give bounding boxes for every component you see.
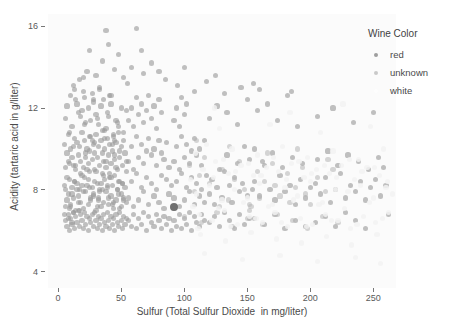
- data-point: [111, 132, 116, 137]
- data-point: [117, 206, 122, 211]
- data-point: [88, 118, 93, 123]
- data-point: [68, 204, 73, 209]
- data-point: [98, 138, 103, 143]
- data-point: [116, 179, 121, 184]
- data-point: [202, 200, 207, 205]
- data-point: [74, 140, 79, 145]
- data-point: [323, 175, 328, 180]
- data-point: [93, 132, 98, 137]
- data-point: [301, 175, 306, 180]
- data-point: [76, 200, 81, 205]
- data-point: [107, 171, 112, 176]
- data-point: [91, 193, 96, 198]
- data-point: [110, 202, 115, 207]
- legend-item-unknown[interactable]: unknown: [368, 64, 463, 82]
- data-point: [189, 228, 194, 233]
- data-point: [246, 161, 251, 166]
- data-point: [144, 228, 149, 233]
- data-point: [204, 173, 209, 178]
- y-axis-tick-mark: [41, 271, 45, 272]
- data-point: [214, 103, 219, 108]
- data-point: [171, 195, 176, 200]
- data-point: [76, 208, 81, 213]
- data-point: [81, 189, 86, 194]
- data-point: [282, 226, 287, 231]
- data-point: [233, 169, 238, 174]
- x-axis-tick-label: 250: [366, 293, 381, 303]
- data-point: [197, 173, 202, 178]
- data-point: [245, 195, 250, 200]
- data-point: [187, 189, 192, 194]
- data-point: [285, 93, 290, 98]
- data-point: [63, 204, 68, 209]
- data-point: [361, 214, 366, 219]
- data-point: [68, 146, 73, 151]
- data-point: [161, 157, 166, 162]
- data-point: [121, 197, 126, 202]
- data-point: [217, 224, 222, 229]
- data-point: [115, 120, 120, 125]
- data-point: [287, 183, 292, 188]
- data-point: [95, 181, 100, 186]
- data-point: [82, 138, 87, 143]
- data-point: [151, 146, 156, 151]
- data-point: [373, 177, 378, 182]
- data-point: [134, 26, 139, 31]
- data-point: [338, 171, 343, 176]
- data-point: [126, 118, 131, 123]
- data-point: [77, 187, 82, 192]
- data-point: [136, 155, 141, 160]
- data-point: [219, 167, 224, 172]
- data-point: [237, 189, 242, 194]
- data-point: [115, 187, 120, 192]
- data-point: [378, 261, 383, 266]
- data-point: [66, 159, 71, 164]
- data-point: [68, 202, 73, 207]
- data-point: [303, 224, 308, 229]
- data-point: [134, 134, 139, 139]
- data-point: [113, 165, 118, 170]
- data-point: [322, 163, 327, 168]
- data-point: [166, 165, 171, 170]
- x-axis-tick-label: 150: [240, 293, 255, 303]
- data-point: [110, 142, 115, 147]
- data-point: [131, 204, 136, 209]
- data-point: [98, 181, 103, 186]
- data-point: [108, 93, 113, 98]
- data-point: [146, 93, 151, 98]
- data-point: [232, 175, 237, 180]
- x-axis-tick-mark: [373, 288, 374, 292]
- data-point: [192, 136, 197, 141]
- data-point: [149, 60, 154, 65]
- data-point: [166, 191, 171, 196]
- data-point: [110, 183, 115, 188]
- data-point: [232, 177, 237, 182]
- data-point: [69, 185, 74, 190]
- data-point: [213, 159, 218, 164]
- data-point: [107, 226, 112, 231]
- data-point: [199, 187, 204, 192]
- data-point: [228, 224, 233, 229]
- legend-item-white[interactable]: white: [368, 82, 463, 100]
- data-point: [69, 124, 74, 129]
- data-point: [260, 159, 265, 164]
- data-point: [141, 210, 146, 215]
- data-point: [192, 89, 197, 94]
- data-point: [187, 210, 192, 215]
- data-point: [76, 152, 81, 157]
- data-point: [217, 204, 222, 209]
- data-point: [235, 122, 240, 127]
- data-point: [252, 216, 257, 221]
- data-point: [112, 67, 117, 72]
- x-axis-tick: 150: [227, 288, 267, 303]
- data-point: [74, 101, 79, 106]
- data-point: [371, 110, 376, 115]
- legend-item-red[interactable]: red: [368, 46, 463, 64]
- data-point: [238, 163, 243, 168]
- data-point: [270, 202, 275, 207]
- data-point: [91, 97, 96, 102]
- data-point: [120, 181, 125, 186]
- data-point: [88, 197, 93, 202]
- data-point: [154, 187, 159, 192]
- data-point: [74, 187, 79, 192]
